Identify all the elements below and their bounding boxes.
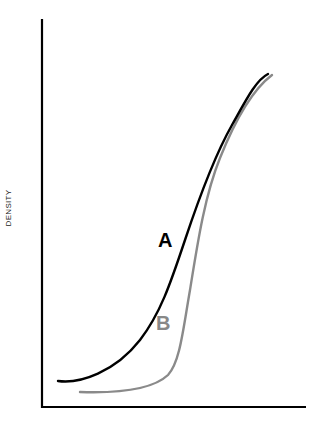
curve-b bbox=[80, 75, 272, 392]
density-chart bbox=[0, 0, 319, 428]
y-axis-label-text: DENSITY bbox=[4, 190, 13, 227]
series-b-label: B bbox=[156, 313, 170, 333]
series-a-label: A bbox=[158, 230, 172, 250]
